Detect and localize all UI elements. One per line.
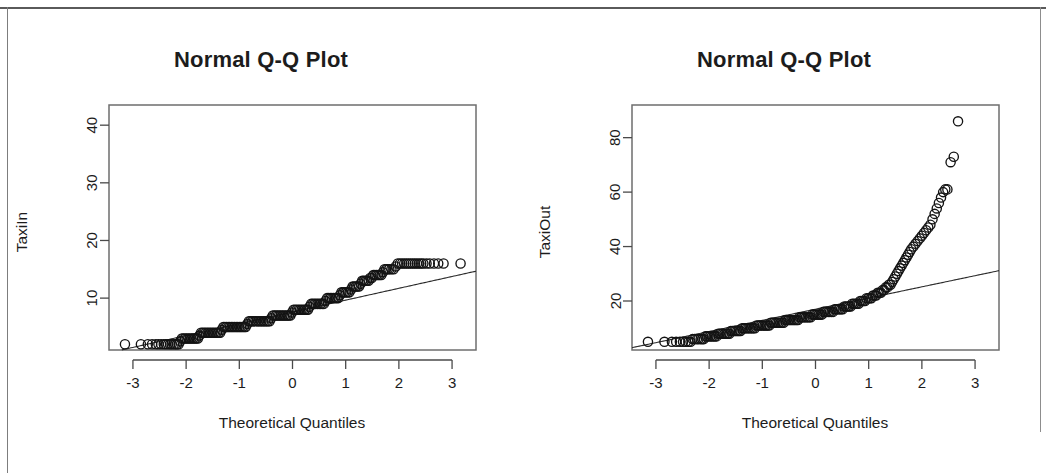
y-tick-label: 40 <box>607 238 624 255</box>
data-point <box>946 158 955 167</box>
data-point <box>928 215 937 224</box>
reference-line-taxiout <box>632 271 999 348</box>
x-tick-label: -2 <box>702 374 715 391</box>
y-tick-label: 10 <box>84 290 101 307</box>
y-axis-taxiout: 20406080 <box>607 129 633 309</box>
x-tick-label: 0 <box>811 374 819 391</box>
x-axis-taxiout: -3-2-10123 <box>649 360 979 391</box>
data-point <box>930 209 939 218</box>
data-point <box>456 259 465 268</box>
x-tick-label: -3 <box>649 374 662 391</box>
y-tick-label: 80 <box>607 129 624 146</box>
data-point <box>932 204 941 213</box>
data-point <box>439 259 448 268</box>
x-tick-label: 2 <box>918 374 926 391</box>
x-tick-label: -1 <box>233 374 246 391</box>
x-axis-title-taxiin: Theoretical Quantiles <box>219 414 366 431</box>
x-tick-label: -3 <box>126 374 139 391</box>
x-tick-label: 0 <box>288 374 296 391</box>
y-tick-label: 20 <box>84 232 101 249</box>
x-tick-label: -2 <box>179 374 192 391</box>
x-tick-label: -1 <box>756 374 769 391</box>
x-tick-label: 3 <box>448 374 456 391</box>
data-point <box>949 152 958 161</box>
qq-plot-svg-taxiout: Normal Q-Q Plot TaxiOut Theoretical Quan… <box>523 0 1046 473</box>
y-axis-taxiin: 10203040 <box>84 117 110 307</box>
data-point <box>953 117 962 126</box>
data-point <box>120 340 129 349</box>
data-points-taxiin <box>120 259 465 349</box>
y-tick-label: 60 <box>607 184 624 201</box>
x-tick-label: 1 <box>342 374 350 391</box>
y-tick-label: 30 <box>84 174 101 191</box>
qq-plot-svg-taxiin: Normal Q-Q Plot TaxiIn Theoretical Quant… <box>0 0 523 473</box>
y-axis-title-taxiin: TaxiIn <box>13 212 30 253</box>
x-tick-label: 3 <box>971 374 979 391</box>
data-point <box>941 185 950 194</box>
data-point <box>643 337 652 346</box>
qq-plot-panel-taxiout: Normal Q-Q Plot TaxiOut Theoretical Quan… <box>523 0 1046 473</box>
qq-plot-panel-taxiin: Normal Q-Q Plot TaxiIn Theoretical Quant… <box>0 0 523 473</box>
x-axis-taxiin: -3-2-10123 <box>126 360 456 391</box>
screenshot-page: Normal Q-Q Plot TaxiIn Theoretical Quant… <box>0 0 1046 473</box>
y-tick-label: 20 <box>607 293 624 310</box>
x-tick-label: 2 <box>395 374 403 391</box>
data-point <box>934 198 943 207</box>
x-axis-title-taxiout: Theoretical Quantiles <box>742 414 889 431</box>
y-axis-title-taxiout: TaxiOut <box>536 205 553 258</box>
y-tick-label: 40 <box>84 117 101 134</box>
plot-title-taxiin: Normal Q-Q Plot <box>174 47 349 72</box>
plot-title-taxiout: Normal Q-Q Plot <box>697 47 872 72</box>
x-tick-label: 1 <box>865 374 873 391</box>
